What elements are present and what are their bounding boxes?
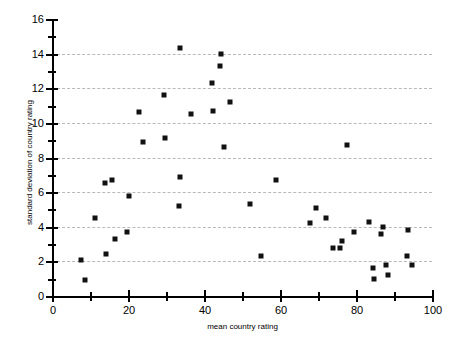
data-point [409, 262, 414, 267]
data-point [379, 231, 384, 236]
y-tick-10 [46, 123, 58, 125]
y-axis-title: standard deviation of country rating [25, 73, 34, 253]
x-tick-label-20: 20 [123, 305, 135, 316]
y-tick-12 [46, 88, 58, 90]
x-minor-tick-50 [242, 292, 244, 301]
data-point [162, 93, 167, 98]
scatter-chart-figure: 0246810121416 020406080100 standard devi… [0, 0, 450, 341]
data-point [352, 229, 357, 234]
data-point [113, 236, 118, 241]
data-point [222, 145, 227, 150]
data-point [140, 139, 145, 144]
data-point [78, 257, 83, 262]
x-tick-80 [356, 290, 358, 302]
data-point [339, 238, 344, 243]
x-tick-label-80: 80 [351, 305, 363, 316]
data-point [259, 254, 264, 259]
y-tick-label-16: 16 [32, 14, 44, 25]
data-point [92, 216, 97, 221]
data-point [110, 178, 115, 183]
y-tick-6 [46, 192, 58, 194]
gridline-y-10 [52, 123, 432, 124]
gridline-y-2 [52, 261, 432, 262]
data-point [83, 278, 88, 283]
x-tick-60 [280, 290, 282, 302]
data-point [344, 143, 349, 148]
y-tick-8 [46, 158, 58, 160]
y-tick-label-0: 0 [38, 291, 44, 302]
x-minor-tick-10 [90, 292, 92, 301]
y-minor-tick-9 [48, 140, 56, 142]
data-point [406, 228, 411, 233]
y-tick-16 [46, 19, 58, 21]
data-point [227, 100, 232, 105]
y-tick-label-4: 4 [38, 221, 44, 232]
x-tick-label-60: 60 [275, 305, 287, 316]
y-tick-label-6: 6 [38, 187, 44, 198]
gridline-y-14 [52, 54, 432, 55]
gridline-y-4 [52, 227, 432, 228]
y-minor-tick-1 [48, 279, 56, 281]
data-point [178, 46, 183, 51]
data-point [209, 81, 214, 86]
y-minor-tick-5 [48, 209, 56, 211]
y-minor-tick-7 [48, 175, 56, 177]
data-point [308, 221, 313, 226]
x-tick-20 [128, 290, 130, 302]
data-point [371, 266, 376, 271]
y-minor-tick-3 [48, 244, 56, 246]
x-tick-label-0: 0 [50, 305, 56, 316]
x-tick-label-100: 100 [424, 305, 442, 316]
data-point [189, 112, 194, 117]
x-tick-0 [52, 290, 54, 302]
data-point [217, 63, 222, 68]
y-tick-14 [46, 54, 58, 56]
data-point [404, 254, 409, 259]
x-tick-label-40: 40 [199, 305, 211, 316]
y-tick-2 [46, 261, 58, 263]
gridline-y-12 [52, 88, 432, 89]
data-point [210, 108, 215, 113]
data-point [380, 224, 385, 229]
x-minor-tick-30 [166, 292, 168, 301]
y-minor-tick-11 [48, 106, 56, 108]
data-point [314, 205, 319, 210]
x-minor-tick-90 [394, 292, 396, 301]
y-tick-label-14: 14 [32, 48, 44, 59]
data-point [137, 110, 142, 115]
y-minor-tick-15 [48, 36, 56, 38]
y-tick-4 [46, 227, 58, 229]
y-tick-label-12: 12 [32, 83, 44, 94]
data-point [385, 273, 390, 278]
data-point [247, 202, 252, 207]
data-point [323, 216, 328, 221]
data-point [103, 252, 108, 257]
gridline-y-8 [52, 158, 432, 159]
data-point [338, 245, 343, 250]
data-point [177, 174, 182, 179]
data-point [384, 262, 389, 267]
data-point [366, 219, 371, 224]
data-point [177, 203, 182, 208]
data-point [124, 229, 129, 234]
gridline-y-6 [52, 192, 432, 193]
data-point [127, 193, 132, 198]
data-point [102, 181, 107, 186]
y-minor-tick-13 [48, 71, 56, 73]
data-point [162, 136, 167, 141]
data-point [219, 51, 224, 56]
x-axis-title: mean country rating [52, 322, 433, 331]
y-tick-label-10: 10 [32, 117, 44, 128]
y-tick-label-2: 2 [38, 256, 44, 267]
y-tick-label-8: 8 [38, 152, 44, 163]
x-minor-tick-70 [318, 292, 320, 301]
x-tick-40 [204, 290, 206, 302]
data-point [274, 178, 279, 183]
data-point [331, 245, 336, 250]
x-tick-100 [432, 290, 434, 302]
plot-area [52, 19, 432, 296]
data-point [371, 276, 376, 281]
